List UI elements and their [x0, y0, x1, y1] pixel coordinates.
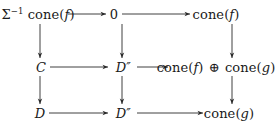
- arrow-r2c2-to-r3c2: [120, 76, 124, 104]
- arrow-r2c1-to-r2c2: [50, 65, 108, 69]
- arrow-r3c1-to-r3c2: [49, 111, 108, 115]
- arrow-r3c2-to-r3c3: [137, 111, 203, 115]
- arrow-r1c2-to-r2c2: [120, 24, 124, 58]
- node-r2c3: cone(f) ⊕ cone(g): [157, 61, 276, 74]
- arrow-r2c3-to-r3c3: [230, 76, 234, 104]
- arrow-r1c2-to-r1c3: [122, 12, 190, 16]
- commutative-diagram: Σ−1 cone(f) 0 cone(f) C D″ cone(f) ⊕ con…: [0, 0, 278, 132]
- arrow-r1c3-to-r2c3: [230, 24, 234, 58]
- node-r3c3: cone(g): [204, 107, 254, 120]
- node-r3c1: D: [35, 107, 46, 120]
- arrow-r2c1-to-r3c1: [38, 76, 42, 104]
- node-r3c2: D″: [116, 107, 131, 120]
- node-r1c2: 0: [110, 8, 118, 21]
- node-r1c1: Σ−1 cone(f): [1, 7, 74, 21]
- arrow-r1c1-to-r2c1: [38, 24, 42, 58]
- node-r1c3: cone(f): [193, 8, 240, 21]
- node-r2c2: D″: [116, 61, 131, 74]
- node-r2c1: C: [36, 61, 46, 74]
